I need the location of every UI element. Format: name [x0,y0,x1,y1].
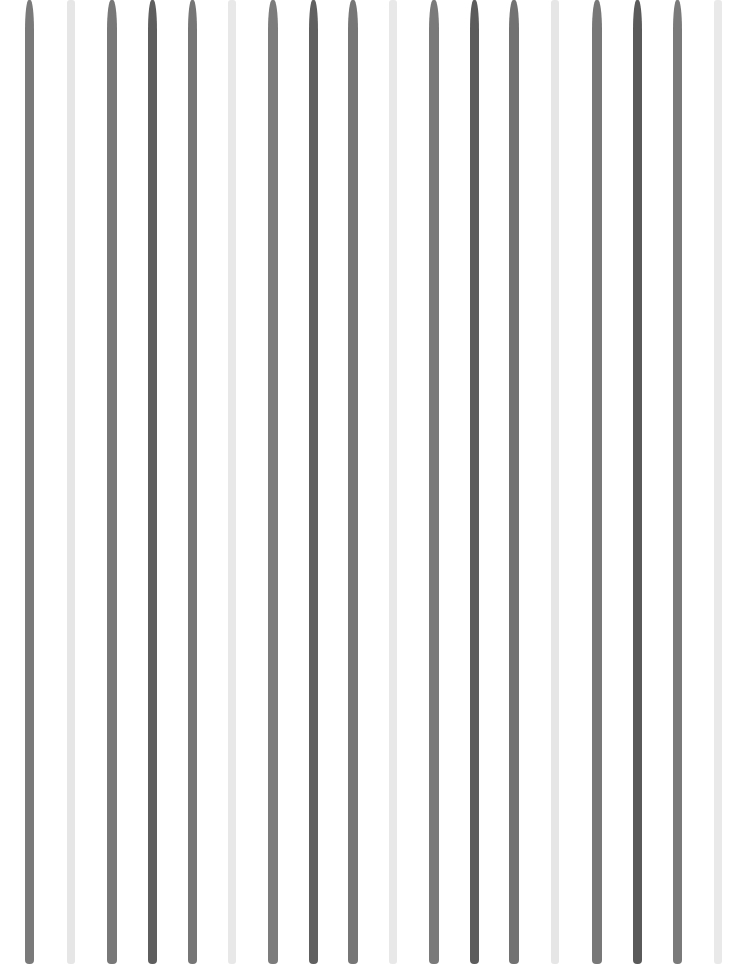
stripe-light [551,0,559,964]
stripe-medium [673,0,682,964]
stripe-light [389,0,397,964]
stripe-medium [25,0,34,964]
stripe-dark [309,0,318,964]
stripe-medium [509,0,519,964]
striped-canvas [0,0,743,964]
stripe-medium [107,0,117,964]
stripe-light [228,0,236,964]
stripe-medium [188,0,197,964]
stripe-dark [470,0,479,964]
stripe-medium [348,0,358,964]
stripe-dark [633,0,642,964]
stripe-dark [148,0,157,964]
stripe-light [714,0,722,964]
stripe-light [67,0,75,964]
stripe-medium [268,0,278,964]
stripe-medium [592,0,602,964]
stripe-medium [429,0,439,964]
